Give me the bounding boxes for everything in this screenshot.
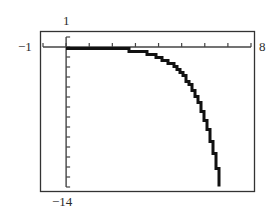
xmin-label: −1	[18, 40, 32, 53]
ymax-label: 1	[63, 14, 70, 27]
function-curve	[66, 49, 219, 187]
ymin-label: −14	[52, 195, 72, 208]
graph-window	[0, 0, 268, 222]
xmax-label: 8	[259, 40, 266, 53]
axes	[43, 37, 251, 187]
